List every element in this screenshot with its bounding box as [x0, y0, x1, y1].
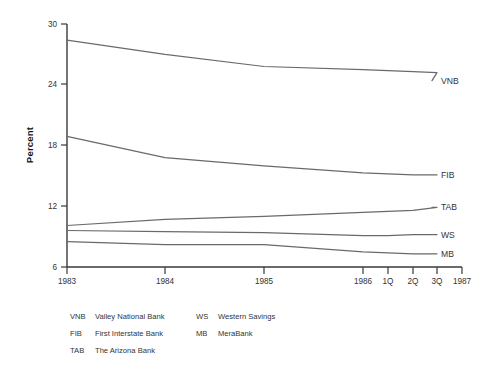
series-label-mb: MB [441, 249, 454, 259]
x-tick-label-1985: 1985 [255, 277, 274, 286]
x-tick-label-2q: 2Q [408, 277, 419, 286]
legend-abbr-mb: MB [196, 329, 207, 338]
line-chart-bank-market-share: Percent 30 24 18 12 6 1983 1984 1985 198… [0, 0, 503, 371]
y-tick-label-24: 24 [48, 80, 58, 89]
y-axis-title: Percent [24, 126, 35, 163]
series-label-fib: FIB [441, 170, 455, 180]
legend-name-tab: The Arizona Bank [95, 346, 155, 355]
x-tick-label-1984: 1984 [156, 277, 175, 286]
legend-name-vnb: Valley National Bank [95, 312, 165, 321]
x-tick-label-1983: 1983 [58, 277, 77, 286]
y-tick-label-6: 6 [52, 263, 57, 272]
legend-name-mb: MeraBank [218, 329, 253, 338]
y-tick-label-18: 18 [48, 141, 58, 150]
legend-abbr-ws: WS [196, 312, 208, 321]
y-tick-label-12: 12 [48, 202, 58, 211]
legend-abbr-vnb: VNB [70, 312, 86, 321]
x-tick-label-1q: 1Q [383, 277, 394, 286]
legend-abbr-tab: TAB [70, 346, 84, 355]
legend-name-ws: Western Savings [218, 312, 275, 321]
series-label-ws: WS [441, 230, 455, 240]
legend-abbr-fib: FIB [70, 329, 82, 338]
x-tick-label-1986: 1986 [354, 277, 373, 286]
x-tick-label-1987: 1987 [453, 277, 472, 286]
series-label-tab: TAB [441, 202, 457, 212]
y-tick-label-30: 30 [48, 20, 58, 29]
x-tick-label-3q: 3Q [432, 277, 443, 286]
series-label-vnb: VNB [441, 76, 459, 86]
legend-name-fib: First Interstate Bank [95, 329, 163, 338]
